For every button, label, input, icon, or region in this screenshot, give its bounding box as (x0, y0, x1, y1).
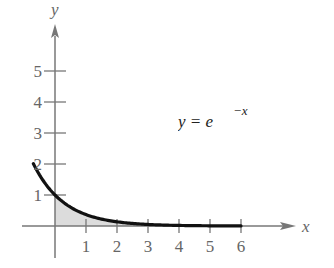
x-axis-label: x (301, 217, 310, 236)
y-axis-arrow-icon (51, 24, 59, 38)
x-tick-label: 2 (113, 237, 122, 256)
x-tick-label: 5 (206, 237, 215, 256)
equation-exponent: −x (233, 103, 248, 118)
x-tick-label: 6 (237, 237, 246, 256)
x-tick-label: 4 (175, 237, 184, 256)
y-tick-label: 2 (34, 155, 43, 174)
y-tick-label: 1 (34, 186, 43, 205)
equation-annotation: y = e −x (178, 95, 268, 139)
y-axis-label: y (49, 0, 59, 19)
y-tick-label: 3 (34, 124, 43, 143)
x-tick-label: 3 (144, 237, 153, 256)
plot-area: 12345612345xy (0, 0, 334, 268)
x-tick-label: 1 (82, 237, 91, 256)
y-tick-label: 5 (34, 62, 43, 81)
y-tick-label: 4 (34, 93, 43, 112)
equation-base: y = e (178, 112, 214, 131)
chart: 12345612345xy y = e −x (0, 0, 334, 268)
